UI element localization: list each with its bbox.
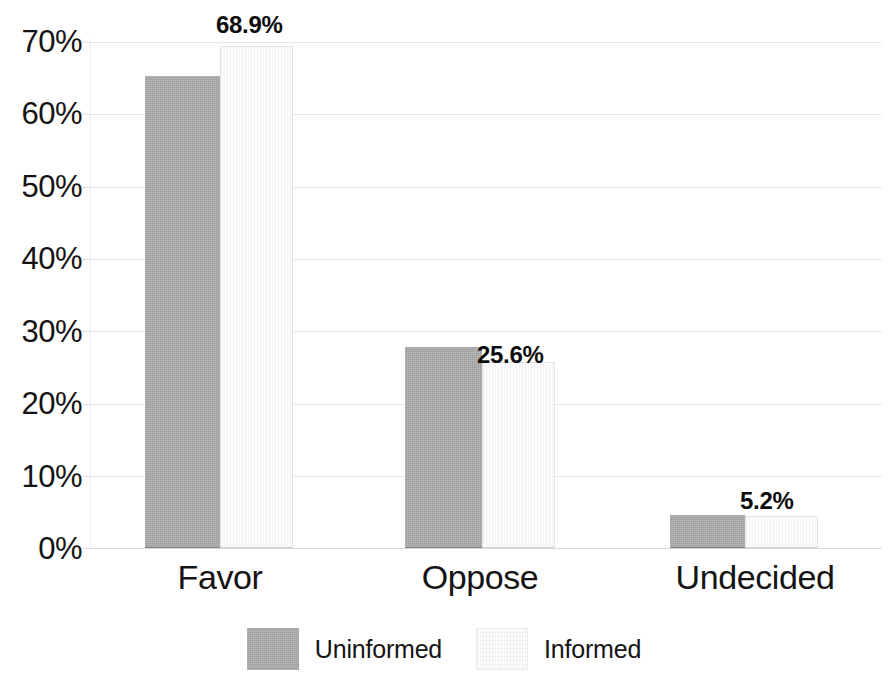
y-tick-mark-20 <box>81 404 90 405</box>
x-axis-category-oppose: Oppose <box>385 557 575 597</box>
legend-label-uninformed: Uninformed <box>315 635 442 663</box>
bar-label-undecided-informed: 5.2% <box>740 489 794 513</box>
x-axis-category-favor: Favor <box>125 557 315 597</box>
y-axis-tick-label-20: 20% <box>0 388 82 419</box>
legend-item-uninformed[interactable]: Uninformed <box>247 628 442 670</box>
y-tick-mark-50 <box>81 187 90 188</box>
y-tick-mark-70 <box>81 42 90 43</box>
y-tick-mark-10 <box>81 476 90 477</box>
y-axis-tick-label-10: 10% <box>0 461 82 492</box>
plot-area: 68.9% 25.6% 5.2% <box>90 30 882 550</box>
bar-favor-informed[interactable] <box>220 46 293 548</box>
gridline-70 <box>90 42 882 43</box>
legend-swatch-informed-icon <box>476 628 528 670</box>
legend-item-informed[interactable]: Informed <box>476 628 641 670</box>
y-tick-mark-40 <box>81 259 90 260</box>
y-axis-tick-label-0: 0% <box>0 533 82 564</box>
y-axis-tick-label-60: 60% <box>0 98 82 129</box>
y-axis-line <box>90 38 91 550</box>
chart-legend: Uninformed Informed <box>0 628 888 670</box>
x-axis-baseline <box>90 548 882 549</box>
bar-undecided-informed[interactable] <box>745 516 818 548</box>
legend-label-informed: Informed <box>544 635 641 663</box>
y-tick-mark-0 <box>81 548 90 549</box>
y-tick-mark-30 <box>81 331 90 332</box>
x-axis-category-undecided: Undecided <box>648 557 862 597</box>
bar-oppose-informed[interactable] <box>482 362 555 548</box>
bar-undecided-uninformed[interactable] <box>670 515 745 548</box>
bar-label-favor-informed: 68.9% <box>216 13 283 37</box>
y-axis-tick-label-40: 40% <box>0 243 82 274</box>
bar-chart: 70% 60% 50% 40% 30% 20% 10% 0% 68.9% 25.… <box>0 0 888 687</box>
bar-favor-uninformed[interactable] <box>145 76 220 548</box>
bar-oppose-uninformed[interactable] <box>405 347 482 548</box>
bar-label-oppose-informed: 25.6% <box>477 343 544 367</box>
y-tick-mark-60 <box>81 114 90 115</box>
y-axis-tick-label-50: 50% <box>0 171 82 202</box>
legend-swatch-uninformed-icon <box>247 628 299 670</box>
y-axis-tick-label-70: 70% <box>0 26 82 57</box>
y-axis-tick-label-30: 30% <box>0 316 82 347</box>
